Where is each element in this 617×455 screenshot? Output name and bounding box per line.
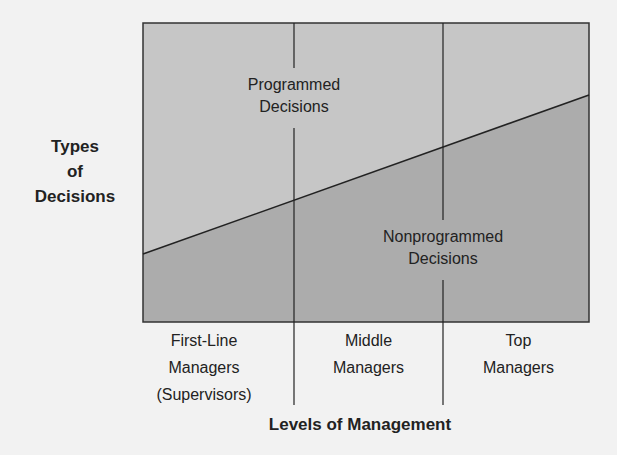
column-middle: Middle Managers — [300, 327, 437, 381]
y-axis-label: Types of Decisions — [20, 134, 130, 209]
column-top: Top Managers — [450, 327, 587, 381]
x-axis-label: Levels of Management — [230, 414, 490, 436]
column-first-line: First-Line Managers (Supervisors) — [140, 327, 268, 408]
programmed-decisions-label: Programmed Decisions — [214, 74, 374, 118]
nonprogrammed-decisions-label: Nonprogrammed Decisions — [353, 226, 533, 270]
